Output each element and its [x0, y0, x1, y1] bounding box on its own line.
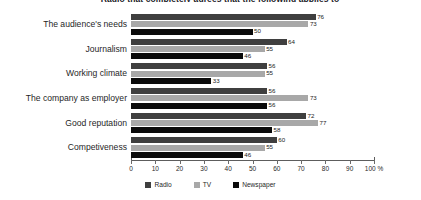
- bar-radio-4[interactable]: [131, 113, 306, 119]
- x-tick-label-70: 70: [297, 165, 304, 172]
- bar-value-tv-2: 55: [266, 69, 273, 76]
- chart-legend: RadioTVNewspaper: [0, 181, 421, 188]
- bar-value-tv-5: 55: [266, 143, 273, 150]
- legend-item-newspaper[interactable]: Newspaper: [233, 181, 275, 188]
- bar-radio-5[interactable]: [131, 137, 277, 143]
- x-tick-label-40: 40: [225, 165, 232, 172]
- bar-value-newspaper-0: 50: [254, 27, 261, 34]
- category-label-5: Competiveness: [0, 142, 127, 152]
- x-tick-0: [131, 160, 132, 164]
- legend-swatch-newspaper: [233, 182, 239, 188]
- bar-value-radio-5: 60: [278, 136, 285, 143]
- category-label-2: Working climate: [0, 68, 127, 78]
- x-tick-label-10: 10: [152, 165, 159, 172]
- bar-value-radio-0: 76: [317, 13, 324, 20]
- bar-value-newspaper-2: 33: [213, 77, 220, 84]
- bar-value-tv-3: 73: [310, 94, 317, 101]
- x-tick-80: [325, 160, 326, 164]
- category-label-0: The audience's needs: [0, 19, 127, 29]
- bar-value-tv-0: 73: [310, 20, 317, 27]
- category-label-4: Good reputation: [0, 118, 127, 128]
- bar-newspaper-4[interactable]: [131, 127, 272, 133]
- bar-tv-2[interactable]: [131, 71, 265, 77]
- bar-value-newspaper-3: 56: [269, 101, 276, 108]
- x-tick-label-100: 100 %: [365, 165, 383, 172]
- bar-tv-1[interactable]: [131, 46, 265, 52]
- bar-radio-0[interactable]: [131, 14, 316, 20]
- x-tick-label-0: 0: [129, 165, 133, 172]
- x-tick-label-90: 90: [346, 165, 353, 172]
- bar-value-newspaper-5: 46: [244, 151, 251, 158]
- x-tick-90: [350, 160, 351, 164]
- x-tick-label-20: 20: [176, 165, 183, 172]
- x-tick-label-80: 80: [322, 165, 329, 172]
- x-tick-label-30: 30: [200, 165, 207, 172]
- x-tick-60: [277, 160, 278, 164]
- bar-value-radio-4: 72: [307, 112, 314, 119]
- x-tick-50: [253, 160, 254, 164]
- bar-newspaper-5[interactable]: [131, 152, 243, 158]
- bar-tv-0[interactable]: [131, 21, 308, 27]
- bar-newspaper-0[interactable]: [131, 29, 253, 35]
- x-tick-40: [228, 160, 229, 164]
- x-tick-70: [301, 160, 302, 164]
- x-tick-label-50: 50: [249, 165, 256, 172]
- x-tick-10: [155, 160, 156, 164]
- bar-value-radio-2: 56: [269, 62, 276, 69]
- bar-value-newspaper-1: 46: [244, 52, 251, 59]
- legend-item-tv[interactable]: TV: [194, 181, 211, 188]
- bar-value-radio-1: 64: [288, 38, 295, 45]
- x-tick-100: [374, 160, 375, 164]
- bar-tv-3[interactable]: [131, 95, 308, 101]
- legend-label-radio: Radio: [154, 181, 171, 188]
- bar-value-tv-4: 77: [320, 119, 327, 126]
- legend-label-tv: TV: [203, 181, 211, 188]
- bar-tv-5[interactable]: [131, 145, 265, 151]
- bar-tv-4[interactable]: [131, 120, 318, 126]
- bar-radio-2[interactable]: [131, 63, 267, 69]
- legend-item-radio[interactable]: Radio: [145, 181, 171, 188]
- bar-value-tv-1: 55: [266, 45, 273, 52]
- x-tick-label-60: 60: [273, 165, 280, 172]
- legend-label-newspaper: Newspaper: [242, 181, 275, 188]
- x-tick-20: [180, 160, 181, 164]
- bar-radio-1[interactable]: [131, 39, 287, 45]
- bar-newspaper-3[interactable]: [131, 103, 267, 109]
- bar-newspaper-1[interactable]: [131, 53, 243, 59]
- bar-value-radio-3: 56: [269, 87, 276, 94]
- chart-container: Radio that completely agrees that the fo…: [0, 0, 421, 200]
- chart-title: Radio that completely agrees that the fo…: [60, 0, 380, 2]
- category-label-3: The company as employer: [0, 93, 127, 103]
- bar-radio-3[interactable]: [131, 88, 267, 94]
- legend-swatch-radio: [145, 182, 151, 188]
- bar-newspaper-2[interactable]: [131, 78, 211, 84]
- legend-swatch-tv: [194, 182, 200, 188]
- x-tick-30: [204, 160, 205, 164]
- bar-value-newspaper-4: 58: [273, 126, 280, 133]
- category-label-1: Journalism: [0, 44, 127, 54]
